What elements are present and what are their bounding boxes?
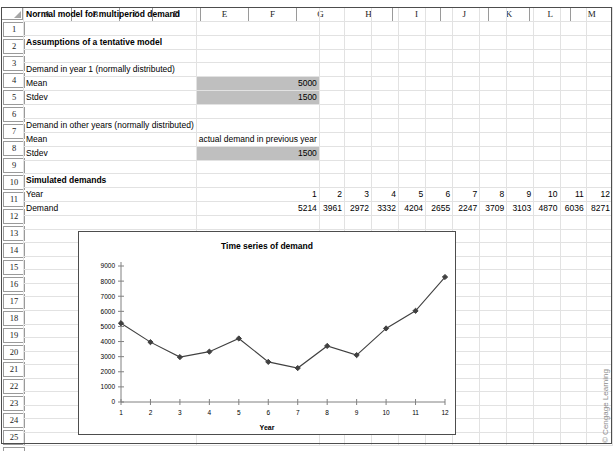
cell-J28[interactable] xyxy=(507,378,534,392)
cell-J24[interactable] xyxy=(507,324,534,338)
cell-H12[interactable] xyxy=(453,160,480,174)
row-header-23[interactable]: 23 xyxy=(3,396,25,411)
cell-J15[interactable]: 3103 xyxy=(507,202,534,216)
cell-E16[interactable] xyxy=(372,216,399,230)
cell-M6[interactable] xyxy=(586,77,612,91)
cell-H8[interactable] xyxy=(453,105,480,119)
cell-B15[interactable]: 5214 xyxy=(196,202,319,216)
cell-D10[interactable] xyxy=(344,132,371,146)
row-header-1[interactable]: 1 xyxy=(3,22,25,37)
cell-J5[interactable] xyxy=(507,63,534,77)
cell-M8[interactable] xyxy=(586,105,612,119)
cell-H2[interactable] xyxy=(453,22,480,36)
cell-C3[interactable] xyxy=(319,35,344,49)
cell-L5[interactable] xyxy=(560,63,586,77)
cell-J9[interactable] xyxy=(507,118,534,132)
cell-K15[interactable]: 4870 xyxy=(534,202,560,216)
cell-H7[interactable] xyxy=(453,91,480,105)
cell-K16[interactable] xyxy=(534,216,560,230)
cell-L1[interactable] xyxy=(560,8,586,22)
cell-B10[interactable]: actual demand in previous year xyxy=(196,132,319,146)
cell-F1[interactable] xyxy=(399,8,426,22)
cell-K25[interactable] xyxy=(534,338,560,352)
cell-A7[interactable]: Stdev xyxy=(24,91,197,105)
cell-I14[interactable]: 8 xyxy=(480,188,507,202)
cell-F9[interactable] xyxy=(399,118,426,132)
cell-F11[interactable] xyxy=(399,146,426,160)
cell-F6[interactable] xyxy=(399,77,426,91)
cell-J11[interactable] xyxy=(507,146,534,160)
cell-M20[interactable] xyxy=(586,270,612,284)
cell-K22[interactable] xyxy=(534,297,560,311)
cell-J19[interactable] xyxy=(507,256,534,270)
cell-J27[interactable] xyxy=(507,365,534,379)
cell-M15[interactable]: 8271 xyxy=(586,202,612,216)
cell-K12[interactable] xyxy=(534,160,560,174)
cell-M3[interactable] xyxy=(586,35,612,49)
cell-C9[interactable] xyxy=(319,118,344,132)
cell-J1[interactable] xyxy=(507,8,534,22)
cell-C7[interactable] xyxy=(319,91,344,105)
cell-M5[interactable] xyxy=(586,63,612,77)
row-header-24[interactable]: 24 xyxy=(3,413,25,428)
cell-A10[interactable]: Mean xyxy=(24,132,197,146)
row-header-15[interactable]: 15 xyxy=(3,260,25,275)
cell-I25[interactable] xyxy=(480,338,507,352)
cell-E8[interactable] xyxy=(372,105,399,119)
cell-K13[interactable] xyxy=(534,174,560,188)
cell-H16[interactable] xyxy=(453,216,480,230)
cell-I17[interactable] xyxy=(480,229,507,243)
row-header-5[interactable]: 5 xyxy=(3,90,25,105)
cell-L6[interactable] xyxy=(560,77,586,91)
cell-I30[interactable] xyxy=(480,405,507,419)
cell-L12[interactable] xyxy=(560,160,586,174)
cell-L29[interactable] xyxy=(560,392,586,406)
cell-J10[interactable] xyxy=(507,132,534,146)
cell-M16[interactable] xyxy=(586,216,612,230)
cell-J6[interactable] xyxy=(507,77,534,91)
cell-J32[interactable] xyxy=(507,432,534,446)
cell-K20[interactable] xyxy=(534,270,560,284)
cell-E15[interactable]: 3332 xyxy=(372,202,399,216)
row-header-2[interactable]: 2 xyxy=(3,39,25,54)
row-header-21[interactable]: 21 xyxy=(3,362,25,377)
cell-F8[interactable] xyxy=(399,105,426,119)
cell-G15[interactable]: 2655 xyxy=(426,202,453,216)
cell-L13[interactable] xyxy=(560,174,586,188)
cell-B14[interactable]: 1 xyxy=(196,188,319,202)
cell-I11[interactable] xyxy=(480,146,507,160)
cell-B3[interactable] xyxy=(196,35,319,49)
cell-F15[interactable]: 4204 xyxy=(399,202,426,216)
cell-I23[interactable] xyxy=(480,311,507,325)
row-header-25[interactable]: 25 xyxy=(3,430,25,445)
cell-K26[interactable] xyxy=(534,351,560,365)
cell-C2[interactable] xyxy=(319,22,344,36)
cell-J17[interactable] xyxy=(507,229,534,243)
cell-K4[interactable] xyxy=(534,49,560,63)
cell-I13[interactable] xyxy=(480,174,507,188)
cell-A11[interactable]: Stdev xyxy=(24,146,197,160)
cell-C12[interactable] xyxy=(319,160,344,174)
cell-C11[interactable] xyxy=(319,146,344,160)
cell-L20[interactable] xyxy=(560,270,586,284)
row-header-22[interactable]: 22 xyxy=(3,379,25,394)
cell-H9[interactable] xyxy=(453,118,480,132)
cell-B16[interactable] xyxy=(196,216,319,230)
row-header-18[interactable]: 18 xyxy=(3,311,25,326)
cell-D1[interactable] xyxy=(344,8,371,22)
row-header-12[interactable]: 12 xyxy=(3,209,25,224)
cell-K19[interactable] xyxy=(534,256,560,270)
cell-G16[interactable] xyxy=(426,216,453,230)
cell-D2[interactable] xyxy=(344,22,371,36)
cell-C15[interactable]: 3961 xyxy=(319,202,344,216)
cell-L30[interactable] xyxy=(560,405,586,419)
cell-D7[interactable] xyxy=(344,91,371,105)
cell-I4[interactable] xyxy=(480,49,507,63)
cell-J22[interactable] xyxy=(507,297,534,311)
row-header-8[interactable]: 8 xyxy=(3,141,25,156)
row-header-4[interactable]: 4 xyxy=(3,73,25,88)
cell-A9[interactable]: Demand in other years (normally distribu… xyxy=(24,118,197,132)
cell-A8[interactable] xyxy=(24,105,197,119)
cell-M9[interactable] xyxy=(586,118,612,132)
cell-H5[interactable] xyxy=(453,63,480,77)
